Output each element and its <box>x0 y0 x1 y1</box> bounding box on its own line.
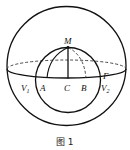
label-v1: V1 <box>21 83 30 94</box>
figure-caption: 图 1 <box>56 137 74 147</box>
label-v2: V2 <box>101 83 110 94</box>
label-m: M <box>63 36 72 46</box>
label-b: B <box>81 83 87 93</box>
outer-sphere <box>7 7 126 126</box>
label-a: A <box>39 83 46 93</box>
equator-back <box>7 60 126 69</box>
sphere-diagram: M V1 A C B V2 Γ 图 1 <box>0 0 130 150</box>
label-gamma: Γ <box>102 71 109 81</box>
arc-mb <box>68 48 86 79</box>
equator-front <box>7 69 126 78</box>
point-m <box>67 46 70 49</box>
label-c: C <box>64 83 71 93</box>
